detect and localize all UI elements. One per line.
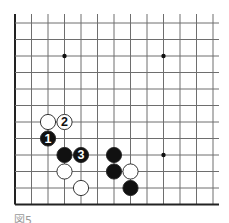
black-stone-icon (123, 180, 138, 195)
white-stone-icon (57, 164, 72, 179)
black-stone (57, 147, 72, 162)
go-board: 213 (0, 0, 229, 223)
black-stone-icon (106, 147, 121, 162)
white-stone (57, 164, 72, 179)
white-stone (73, 180, 88, 195)
star-point-icon (62, 54, 66, 58)
star-point-icon (161, 153, 165, 157)
white-stone (123, 164, 138, 179)
diagram-caption: 図5 (14, 215, 32, 223)
black-stone-icon (57, 147, 72, 162)
black-stone-icon (106, 164, 121, 179)
white-stone-icon (123, 164, 138, 179)
move-number-label: 2 (61, 115, 68, 129)
black-stone-1: 1 (40, 131, 55, 146)
star-point-icon (161, 54, 165, 58)
black-stone-3: 3 (73, 147, 88, 162)
move-number-label: 3 (78, 148, 85, 162)
white-stone (40, 114, 55, 129)
black-stone (106, 164, 121, 179)
white-stone-2: 2 (57, 114, 72, 129)
move-number-label: 1 (45, 132, 52, 146)
black-stone (106, 147, 121, 162)
white-stone-icon (73, 180, 88, 195)
black-stone (123, 180, 138, 195)
white-stone-icon (40, 114, 55, 129)
